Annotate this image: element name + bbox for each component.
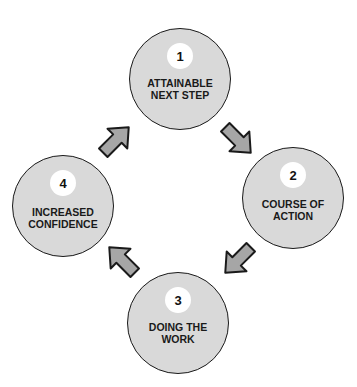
arrow-up-left-icon bbox=[100, 238, 144, 282]
node-doing-the-work: 3 DOING THE WORK bbox=[127, 272, 229, 374]
arrow-down-left-icon bbox=[216, 238, 260, 282]
node-label: ATTAINABLE NEXT STEP bbox=[134, 77, 226, 101]
arrow-up-right-icon bbox=[94, 118, 138, 162]
step-number-badge: 3 bbox=[165, 287, 191, 313]
node-course-of-action: 2 COURSE OF ACTION bbox=[242, 147, 344, 249]
step-number-badge: 2 bbox=[280, 162, 306, 188]
arrow-down-right-icon bbox=[216, 118, 260, 162]
step-number-badge: 1 bbox=[167, 43, 193, 69]
node-label: INCREASED CONFIDENCE bbox=[17, 206, 109, 230]
node-attainable-next-step: 1 ATTAINABLE NEXT STEP bbox=[129, 28, 231, 130]
cycle-diagram: 1 ATTAINABLE NEXT STEP 2 COURSE OF ACTIO… bbox=[0, 0, 357, 387]
node-label: COURSE OF ACTION bbox=[247, 198, 339, 222]
step-number-badge: 4 bbox=[50, 170, 76, 196]
node-label: DOING THE WORK bbox=[132, 321, 224, 345]
node-increased-confidence: 4 INCREASED CONFIDENCE bbox=[12, 155, 114, 257]
